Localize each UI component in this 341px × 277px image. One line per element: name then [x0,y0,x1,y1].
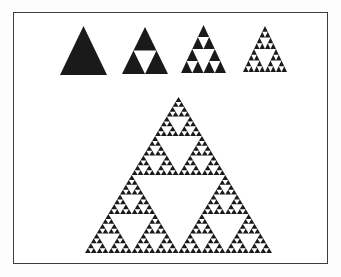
figure-canvas [0,0,341,277]
sierpinski-stage-3-triangle [243,26,287,72]
sierpinski-stage-0-triangle [60,26,107,75]
sierpinski-stage-1-triangle [122,27,168,74]
sierpinski-main-triangle [85,97,272,253]
sierpinski-stage-2-triangle [181,25,226,73]
